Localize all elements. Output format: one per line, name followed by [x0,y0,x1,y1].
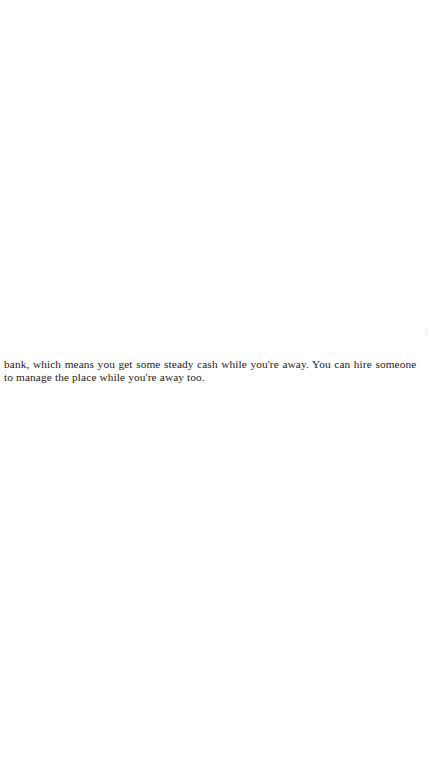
scan-artifact-speck [425,328,428,335]
paragraph-continuation: bank, which means you get some steady ca… [4,358,406,384]
body-text-block: bank, which means you get some steady ca… [4,358,406,384]
text-line-1: bank, which means you get some steady ca… [4,358,406,371]
text-line-2: to manage the place while you're away to… [4,371,406,384]
document-page: bank, which means you get some steady ca… [0,0,435,769]
